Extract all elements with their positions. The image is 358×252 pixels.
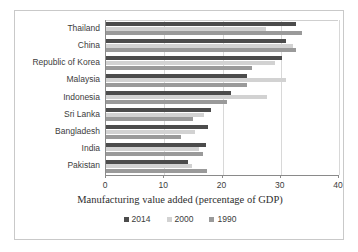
x-tick-mark (338, 175, 339, 178)
category-label: Malaysia (11, 75, 100, 84)
bar-2014-india (106, 143, 206, 147)
bar-2000-sri-lanka (106, 113, 204, 117)
bar-2000-malaysia (106, 78, 286, 82)
plot-area (105, 20, 338, 175)
bar-1990-china (106, 48, 296, 52)
bar-2000-indonesia (106, 95, 267, 99)
legend-item-2014[interactable]: 2014 (124, 214, 151, 224)
category-label: Bangladesh (11, 127, 100, 136)
bar-2000-china (106, 44, 293, 48)
bar-2014-china (106, 39, 286, 43)
chart-plot-wrapper: ThailandChinaRepublic of KoreaMalaysiaIn… (15, 11, 345, 241)
bar-group (106, 72, 338, 89)
category-label: China (11, 41, 100, 50)
bar-1990-india (106, 152, 203, 156)
bar-2000-pakistan (106, 164, 192, 168)
bar-1990-indonesia (106, 100, 227, 104)
legend-item-1990[interactable]: 1990 (209, 214, 236, 224)
x-tick-mark (280, 175, 281, 178)
bar-2014-republic-of-korea (106, 56, 282, 60)
category-label: India (11, 144, 100, 153)
category-label: Indonesia (11, 93, 100, 102)
bar-group (106, 20, 338, 37)
category-label: Republic of Korea (11, 58, 100, 67)
legend-item-2000[interactable]: 2000 (167, 214, 194, 224)
bar-2014-indonesia (106, 91, 231, 95)
category-label: Sri Lanka (11, 110, 100, 119)
legend-label: 2000 (175, 214, 194, 224)
chart-frame: ThailandChinaRepublic of KoreaMalaysiaIn… (14, 10, 344, 240)
category-axis-labels: ThailandChinaRepublic of KoreaMalaysiaIn… (15, 20, 104, 175)
bar-1990-bangladesh (106, 135, 181, 139)
x-tick-mark (105, 175, 106, 178)
legend-swatch-icon (167, 217, 172, 222)
bar-1990-malaysia (106, 83, 247, 87)
bar-group (106, 89, 338, 106)
category-label: Thailand (11, 24, 100, 33)
bar-2000-republic-of-korea (106, 61, 275, 65)
bar-group (106, 158, 338, 175)
bar-group (106, 54, 338, 71)
bar-1990-thailand (106, 31, 302, 35)
bar-2014-pakistan (106, 160, 188, 164)
category-label: Pakistan (11, 161, 100, 170)
x-axis-title: Manufacturing value added (percentage of… (15, 194, 345, 205)
x-tick-mark (163, 175, 164, 178)
x-tick-label: 40 (333, 180, 342, 190)
x-tick-label: 30 (275, 180, 284, 190)
x-tick-label: 10 (159, 180, 168, 190)
legend-label: 2014 (132, 214, 151, 224)
bar-group (106, 37, 338, 54)
chart-legend: 201420001990 (15, 214, 345, 224)
x-tick-label: 20 (217, 180, 226, 190)
bar-1990-republic-of-korea (106, 66, 252, 70)
bar-group (106, 106, 338, 123)
legend-label: 1990 (217, 214, 236, 224)
legend-swatch-icon (124, 217, 129, 222)
bar-2000-bangladesh (106, 130, 195, 134)
bar-2000-thailand (106, 27, 266, 31)
gridline (339, 20, 340, 175)
bar-2014-malaysia (106, 74, 247, 78)
bar-group (106, 141, 338, 158)
x-tick-mark (222, 175, 223, 178)
bar-2014-sri-lanka (106, 108, 211, 112)
legend-swatch-icon (209, 217, 214, 222)
bar-2014-thailand (106, 22, 296, 26)
bar-1990-sri-lanka (106, 117, 193, 121)
x-tick-label: 0 (103, 180, 108, 190)
bar-2014-bangladesh (106, 125, 208, 129)
bar-group (106, 123, 338, 140)
bar-1990-pakistan (106, 169, 207, 173)
bar-2000-india (106, 147, 199, 151)
